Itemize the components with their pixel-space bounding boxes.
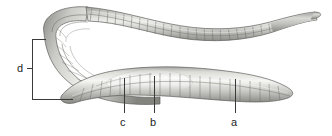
leader-line-c xyxy=(124,78,125,113)
worm-tail-tip xyxy=(270,12,317,32)
callout-label-a: a xyxy=(231,117,237,128)
callout-label-d: d xyxy=(17,63,23,74)
bracket-d-bottom-arm xyxy=(32,99,73,100)
bracket-d-top-arm xyxy=(32,39,46,40)
bracket-d-spine xyxy=(32,39,33,100)
bracket-d-tick xyxy=(27,68,33,69)
leader-line-a xyxy=(235,79,236,113)
anatomy-figure: a b c d xyxy=(0,0,332,136)
earthworm-illustration xyxy=(0,0,332,136)
callout-label-b: b xyxy=(150,117,156,128)
leader-line-b xyxy=(154,76,155,113)
callout-label-c: c xyxy=(120,117,126,128)
worm-lower-segment xyxy=(61,67,293,104)
